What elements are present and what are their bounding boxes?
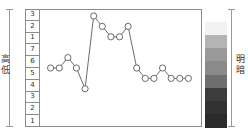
y-tick-column: 3217654321 — [25, 9, 40, 127]
y-tick-label: 7 — [25, 44, 40, 56]
legend-axis-line — [231, 9, 232, 127]
left-axis-top-cap — [6, 9, 13, 10]
legend-label-bright: 明 — [236, 55, 245, 64]
data-point-marker — [56, 65, 62, 71]
plot-inner — [26, 10, 201, 126]
data-point-marker — [82, 86, 88, 92]
legend-band — [205, 61, 227, 75]
data-point-marker — [116, 34, 122, 40]
grayscale-legend-bar — [205, 9, 227, 127]
data-point-marker — [65, 55, 71, 61]
y-tick-label: 1 — [25, 33, 40, 45]
data-point-marker — [48, 65, 54, 71]
legend-band — [205, 35, 227, 49]
data-point-marker — [142, 75, 148, 81]
legend-axis-top-cap — [228, 9, 235, 10]
data-point-marker — [185, 75, 191, 81]
data-point-marker — [73, 65, 79, 71]
y-tick-label: 3 — [25, 9, 40, 21]
legend-band — [205, 114, 227, 128]
legend-band — [205, 101, 227, 115]
data-point-marker — [91, 13, 97, 19]
left-axis-bottom-cap — [6, 126, 13, 127]
legend-band — [205, 75, 227, 89]
data-point-marker — [159, 65, 165, 71]
y-tick-label: 5 — [25, 68, 40, 80]
legend-band — [205, 88, 227, 102]
y-tick-label: 4 — [25, 80, 40, 92]
y-tick-label: 1 — [25, 115, 40, 127]
y-tick-label: 2 — [25, 21, 40, 33]
data-point-marker — [134, 65, 140, 71]
data-point-marker — [151, 75, 157, 81]
line-series — [26, 10, 201, 126]
y-tick-label: 2 — [25, 103, 40, 115]
y-tick-label: 6 — [25, 56, 40, 68]
data-point-marker — [99, 23, 105, 29]
data-point-marker — [177, 75, 183, 81]
data-point-marker — [108, 34, 114, 40]
plot-area — [25, 9, 202, 127]
y-tick-label: 3 — [25, 92, 40, 104]
data-point-marker — [125, 23, 131, 29]
axis-label-high: 高 — [1, 55, 10, 64]
legend-band — [205, 9, 227, 23]
data-point-marker — [168, 75, 174, 81]
figure-root: 高 低 3217654321 明 暗 — [0, 0, 248, 140]
legend-axis-bottom-cap — [228, 126, 235, 127]
legend-label-dark: 暗 — [236, 66, 245, 75]
legend-band — [205, 22, 227, 36]
legend-band — [205, 48, 227, 62]
axis-label-low: 低 — [1, 66, 10, 75]
